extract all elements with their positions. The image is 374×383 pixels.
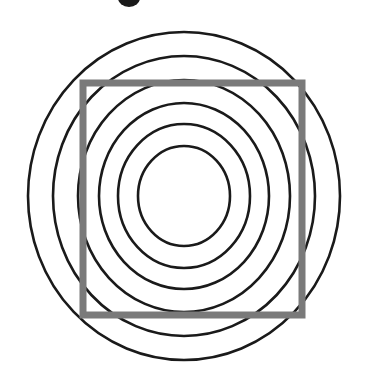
figure-background (0, 0, 374, 383)
concentric-circles-figure (0, 0, 374, 383)
figure-root (0, 0, 374, 383)
